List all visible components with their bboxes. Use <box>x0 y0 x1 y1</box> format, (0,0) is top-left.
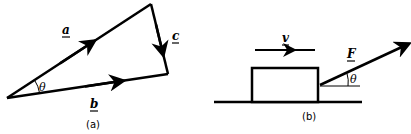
vector-b-arrow-icon <box>85 82 118 87</box>
angle-arc-b <box>347 74 348 87</box>
diagram-a: a c b θ (a) <box>7 4 180 130</box>
label-f: F <box>346 47 357 61</box>
caption-a: (a) <box>86 119 100 130</box>
label-v: v <box>282 31 290 45</box>
block <box>252 68 318 102</box>
caption-b: (b) <box>302 111 316 122</box>
label-b: b <box>90 97 98 111</box>
angle-theta-a: θ <box>39 81 46 94</box>
label-a: a <box>62 23 70 37</box>
vector-a-arrow-icon <box>60 44 90 64</box>
diagram-b: v F θ (b) <box>214 31 404 122</box>
vector-c-arrow-icon <box>156 25 162 50</box>
label-c: c <box>172 29 180 43</box>
angle-theta-b: θ <box>350 73 357 86</box>
force-arrow-icon <box>320 46 404 85</box>
diagram-canvas: a c b θ (a) v F θ (b) <box>0 0 411 134</box>
